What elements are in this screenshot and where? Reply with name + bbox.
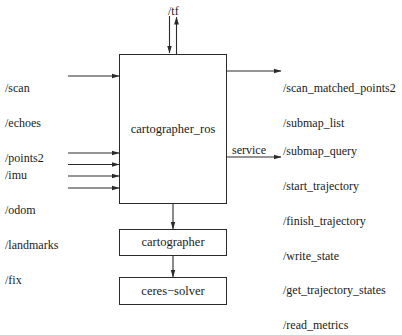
input-topic-label: /echoes	[5, 118, 44, 130]
output-topic-label: /scan_matched_points2	[283, 83, 396, 95]
input-topic-label: /imu	[5, 170, 58, 182]
node-label: ceres−solver	[141, 285, 204, 298]
input-topic-label: /landmarks	[5, 240, 58, 252]
service-label: service	[232, 144, 266, 156]
service-name-label: /write_state	[283, 251, 386, 263]
input-topic-label: /odom	[5, 205, 58, 217]
node-label: cartographer	[141, 236, 204, 249]
node-ceres-solver: ceres−solver	[119, 277, 227, 305]
input-topic-label: /scan	[5, 83, 44, 95]
service-name-label: /get_trajectory_states	[283, 285, 386, 297]
input-topics-group-2: /imu /odom /landmarks /fix	[5, 147, 58, 309]
service-name-label: /submap_query	[283, 146, 386, 158]
service-name-label: /start_trajectory	[283, 181, 386, 193]
service-name-label: /finish_trajectory	[283, 216, 386, 228]
node-cartographer: cartographer	[119, 229, 227, 256]
tf-topic-label: /tf	[168, 5, 179, 17]
input-topic-label: /fix	[5, 275, 58, 287]
node-label: cartographer_ros	[131, 123, 216, 136]
service-name-label: /read_metrics	[283, 320, 386, 332]
service-list-group: /submap_query /start_trajectory /finish_…	[283, 123, 386, 335]
node-cartographer-ros: cartographer_ros	[119, 54, 227, 204]
